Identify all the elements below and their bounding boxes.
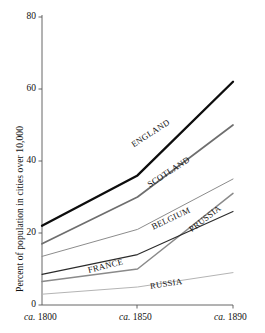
axis-lines [39,15,234,309]
x-tick-1850-year: 1850 [133,312,152,322]
series-line-russia [42,273,233,295]
x-tick-1890-year: 1890 [228,312,247,322]
chart-container: Percent of population in cities over 10,… [0,0,265,333]
x-tick-label-1800: ca. 1800 [24,312,57,322]
series-line-england [42,82,233,226]
plot-area [0,0,265,333]
x-tick-1800-year: 1800 [38,312,57,322]
x-tick-label-1850: ca. 1850 [119,312,152,322]
series-lines [42,82,233,294]
x-tick-label-1890: ca. 1890 [214,312,247,322]
